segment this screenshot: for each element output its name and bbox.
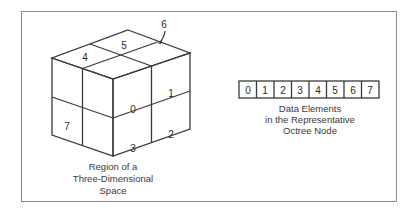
node-cell-2: 2 [280,85,286,96]
octant-6-leader-line [160,31,165,42]
cube-caption-line-3: Space [100,185,127,196]
octant-label-5: 5 [121,40,127,51]
node-caption: Data Elements in the Representative Octr… [265,103,355,136]
octree-node-array: 0 1 2 3 4 5 6 7 [239,81,379,98]
octant-label-7: 7 [64,121,70,132]
octree-cube: 4 5 6 0 1 2 3 7 [52,19,190,156]
node-cell-1: 1 [262,85,268,96]
node-cell-4: 4 [315,85,321,96]
node-caption-line-1: Data Elements [279,103,342,114]
octant-label-3: 3 [130,143,136,154]
node-cell-7: 7 [367,85,373,96]
node-cell-6: 6 [350,85,356,96]
octant-label-0: 0 [130,104,136,115]
node-caption-line-2: in the Representative [265,114,355,125]
cube-caption: Region of a Three-Dimensional Space [73,161,153,196]
node-cell-5: 5 [332,85,338,96]
octant-label-6: 6 [161,19,167,30]
node-caption-line-3: Octree Node [283,125,337,136]
cube-caption-line-2: Three-Dimensional [73,173,153,184]
octant-label-1: 1 [168,88,174,99]
octant-label-4: 4 [82,52,88,63]
cube-caption-line-1: Region of a [89,161,138,172]
node-cell-0: 0 [245,85,251,96]
node-cell-3: 3 [297,85,303,96]
octant-label-2: 2 [168,129,174,140]
octree-diagram: 4 5 6 0 1 2 3 7 Region of a Three-Dimens… [0,0,413,214]
